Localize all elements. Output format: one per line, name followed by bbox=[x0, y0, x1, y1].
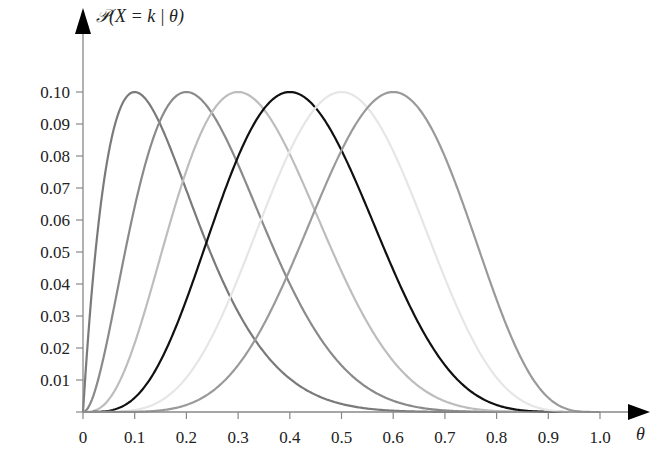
x-tick-label: 0.1 bbox=[124, 428, 145, 447]
y-tick-label: 0.04 bbox=[40, 275, 70, 294]
x-tick-label: 0.9 bbox=[538, 428, 559, 447]
y-axis-title: 𝒫(X = k | θ) bbox=[96, 6, 184, 27]
y-axis-arrow-icon bbox=[75, 8, 91, 34]
y-tick-label: 0.08 bbox=[40, 147, 70, 166]
x-ticks: 00.10.20.30.40.50.60.70.80.91.0 bbox=[79, 412, 611, 447]
y-tick-label: 0.01 bbox=[40, 371, 70, 390]
x-tick-label: 0.4 bbox=[279, 428, 301, 447]
y-tick-label: 0.05 bbox=[40, 243, 70, 262]
x-axis-title: θ bbox=[636, 424, 645, 444]
y-tick-label: 0.06 bbox=[40, 211, 70, 230]
x-tick-label: 0.2 bbox=[176, 428, 197, 447]
x-tick-label: 0.5 bbox=[331, 428, 352, 447]
x-tick-label: 0 bbox=[79, 428, 88, 447]
x-tick-label: 0.3 bbox=[227, 428, 248, 447]
x-tick-label: 0.8 bbox=[486, 428, 507, 447]
likelihood-chart: 00.10.20.30.40.50.60.70.80.91.0 0.010.02… bbox=[0, 0, 672, 469]
y-tick-label: 0.03 bbox=[40, 307, 70, 326]
x-axis-arrow-icon bbox=[628, 404, 650, 420]
y-tick-label: 0.02 bbox=[40, 339, 70, 358]
curves bbox=[83, 92, 600, 412]
curve-2 bbox=[83, 92, 600, 412]
x-tick-label: 1.0 bbox=[589, 428, 610, 447]
x-tick-label: 0.6 bbox=[383, 428, 404, 447]
y-tick-label: 0.07 bbox=[40, 179, 70, 198]
y-tick-label: 0.10 bbox=[40, 83, 70, 102]
x-tick-label: 0.7 bbox=[434, 428, 456, 447]
y-tick-label: 0.09 bbox=[40, 115, 70, 134]
y-ticks: 0.010.020.030.040.050.060.070.080.090.10 bbox=[40, 83, 83, 412]
